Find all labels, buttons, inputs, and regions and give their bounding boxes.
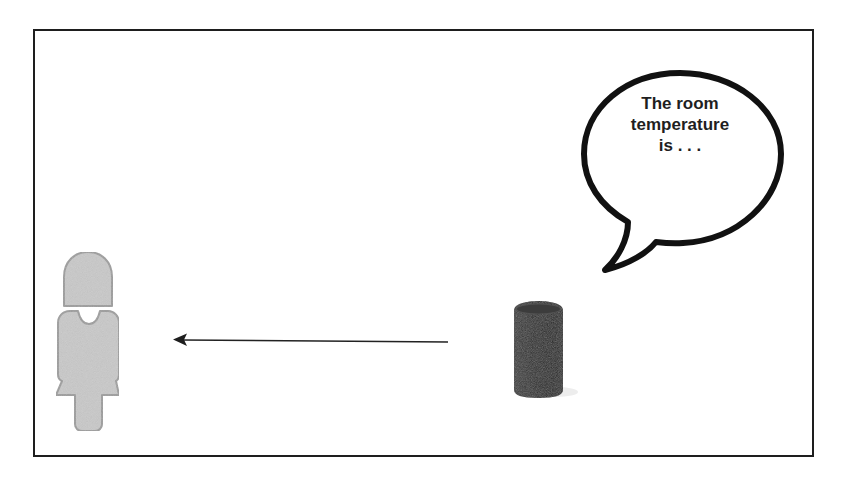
smart-speaker-icon (514, 301, 578, 398)
person-body (56, 311, 119, 431)
speaker-top (517, 304, 561, 314)
arrow-speaker-to-person (173, 334, 448, 347)
diagram-canvas (0, 0, 844, 482)
person-icon (56, 252, 119, 431)
arrow-line (182, 340, 448, 342)
speaker-body (514, 301, 563, 398)
speech-line-1: The room (600, 93, 760, 114)
speech-bubble-text: The room temperature is . . . (600, 93, 760, 156)
person-head (64, 252, 112, 306)
speech-line-2: temperature (600, 114, 760, 135)
speech-line-3: is . . . (600, 135, 760, 156)
